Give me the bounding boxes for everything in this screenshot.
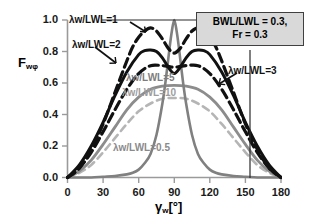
curve-label-lambda-3: λw/LWL=3: [228, 66, 277, 76]
chart-figure: 1.0 0.8 0.6 0.4 0.2 0.0 0 30 60 90 120 1…: [0, 0, 314, 224]
x-tick-120: 120: [196, 187, 224, 198]
curve-label-lambda-10: λw/LWL=10: [122, 88, 176, 98]
x-tick-180: 180: [267, 187, 295, 198]
info-box-line-1: BWL/LWL = 0.3,: [199, 16, 301, 29]
y-tick-1: 1.0: [6, 14, 58, 25]
y-axis-title-sub: wφ: [26, 62, 38, 71]
x-tick-60: 60: [125, 187, 153, 198]
curve-label-lambda-5: λw/LWL=5: [126, 73, 175, 83]
x-tick-90: 90: [160, 187, 188, 198]
y-axis-ticks: [62, 20, 68, 178]
x-axis-title-unit: [°]: [168, 199, 182, 214]
y-tick-06: 0.6: [6, 77, 58, 88]
y-tick-04: 0.4: [6, 109, 58, 120]
y-tick-02: 0.2: [6, 140, 58, 151]
x-tick-0: 0: [54, 187, 82, 198]
curve-label-lambda-1: λw/LWL=1: [69, 15, 118, 25]
curve-label-lambda-2: λw/LWL=2: [72, 40, 121, 50]
info-box-line-2: Fr = 0.3: [199, 29, 301, 42]
x-tick-150: 150: [231, 187, 259, 198]
y-axis-title: Fwφ: [18, 56, 38, 71]
y-tick-0: 0.0: [6, 172, 58, 183]
x-axis-title: γw[°]: [155, 200, 182, 215]
info-box: BWL/LWL = 0.3, Fr = 0.3: [196, 12, 304, 46]
x-tick-30: 30: [89, 187, 117, 198]
y-tick-08: 0.8: [6, 46, 58, 57]
y-axis-title-main: F: [18, 55, 26, 70]
curve-label-lambda-05: λw/LWL=0.5: [113, 143, 170, 153]
x-axis-ticks: [68, 178, 282, 184]
